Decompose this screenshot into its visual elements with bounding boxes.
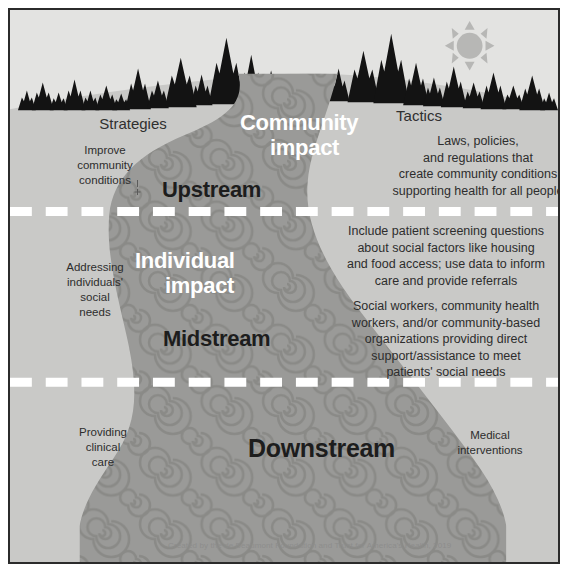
upstream-level-label: Upstream bbox=[162, 177, 261, 203]
credit-line: Created by the de Beaumont Foundation an… bbox=[168, 541, 451, 550]
midstream-tactic-upper-text: Include patient screening questions abou… bbox=[330, 223, 560, 289]
column-header-strategies: Strategies bbox=[38, 115, 228, 132]
pointer-artifact-icon bbox=[133, 180, 142, 198]
upstream-tactic-text: Laws, policies, and regulations that cre… bbox=[362, 133, 560, 199]
downstream-tactic-text: Medical interventions bbox=[430, 428, 550, 458]
upstream-strategy-text: Improve community conditions bbox=[30, 143, 180, 188]
downstream-strategy-text: Providing clinical care bbox=[28, 425, 178, 470]
midstream-tactic-lower-text: Social workers, community health workers… bbox=[330, 298, 560, 381]
infographic-canvas: Strategies Tactics Improve community con… bbox=[0, 0, 568, 574]
midstream-level-label: Midstream bbox=[163, 326, 270, 352]
downstream-level-label: Downstream bbox=[248, 434, 395, 463]
midstream-impact-label-line2: impact bbox=[165, 273, 234, 298]
upstream-impact-label-line2: impact bbox=[270, 135, 339, 160]
midstream-impact-label-line1: Individual bbox=[135, 248, 235, 273]
upstream-impact-label-line1: Community bbox=[240, 110, 358, 135]
diagram-frame: Strategies Tactics Improve community con… bbox=[8, 8, 560, 564]
